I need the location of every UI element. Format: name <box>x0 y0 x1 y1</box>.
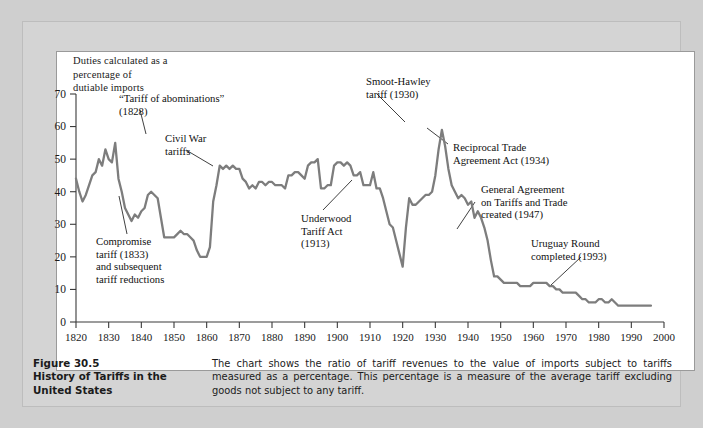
annotation-line: Reciprocal Trade <box>453 141 549 154</box>
annotation-tariff-of-abominations: “Tariff of abominations” (1828) <box>119 92 224 117</box>
x-axis-tick-label: 1930 <box>424 331 447 343</box>
x-axis-tick-label: 1990 <box>620 331 643 343</box>
annotation-line: Tariff Act <box>301 225 351 238</box>
x-axis-tick-label: 1960 <box>522 331 545 343</box>
annotation-line: on Tariffs and Trade <box>481 196 567 209</box>
annotation-reciprocal-trade: Reciprocal Trade Agreement Act (1934) <box>453 141 549 166</box>
chart-plot: 010203040506070 182018301840185018601870… <box>23 22 680 406</box>
x-axis-tick-label: 1900 <box>326 331 349 343</box>
annotation-compromise-tariff: Compromise tariff (1833) and subsequent … <box>96 235 164 285</box>
y-axis-ticks: 010203040506070 <box>55 88 77 328</box>
annotation-line: General Agreement <box>481 183 567 196</box>
y-axis-tick-label: 50 <box>55 153 67 165</box>
figure-caption-body: The chart shows the ratio of tariff reve… <box>212 357 672 397</box>
figure-caption-title: Figure 30.5 History of Tariffs in the Un… <box>33 357 208 397</box>
x-axis-tick-label: 1820 <box>65 331 88 343</box>
x-axis-tick-label: 1830 <box>98 331 121 343</box>
x-axis-tick-label: 1880 <box>261 331 284 343</box>
annotation-line: completed (1993) <box>531 250 607 263</box>
annotation-smoot-hawley: Smoot-Hawley tariff (1930) <box>366 75 431 100</box>
annotation-line: (1913) <box>301 237 351 250</box>
annotation-civil-war-tariffs: Civil War tariffs <box>165 132 206 157</box>
annotation-line: Smoot-Hawley <box>366 75 431 88</box>
caption-title-line-2: History of Tariffs in the <box>33 370 208 383</box>
annotation-line: Compromise <box>96 235 164 248</box>
annotation-line: Underwood <box>301 212 351 225</box>
annotation-line: “Tariff of abominations” <box>119 92 224 105</box>
chart-axes <box>76 94 664 322</box>
annotation-line: created (1947) <box>481 208 567 221</box>
annotation-line: tariff reductions <box>96 273 164 286</box>
annotation-line: tariffs <box>165 145 206 158</box>
y-axis-tick-label: 60 <box>55 120 67 132</box>
x-axis-tick-label: 1870 <box>228 331 251 343</box>
y-axis-tick-label: 10 <box>55 283 67 295</box>
caption-title-line-1: Figure 30.5 <box>33 357 208 370</box>
x-axis-tick-label: 1910 <box>359 331 382 343</box>
annotation-line: tariff (1930) <box>366 88 431 101</box>
x-axis-tick-label: 2000 <box>653 331 676 343</box>
x-axis-tick-label: 1940 <box>457 331 480 343</box>
x-axis-tick-label: 1840 <box>130 331 153 343</box>
annotation-uruguay-round: Uruguay Round completed (1993) <box>531 237 607 262</box>
page-background: Duties calculated as a percentage of dut… <box>0 0 703 428</box>
annotation-line: Agreement Act (1934) <box>453 154 549 167</box>
y-axis-tick-label: 70 <box>55 88 67 100</box>
y-axis-tick-label: 30 <box>55 218 67 230</box>
x-axis-tick-label: 1970 <box>555 331 578 343</box>
y-axis-tick-label: 20 <box>55 251 67 263</box>
annotation-line: tariff (1833) <box>96 248 164 261</box>
x-axis-tick-label: 1890 <box>294 331 317 343</box>
annotation-line: Uruguay Round <box>531 237 607 250</box>
x-axis-tick-label: 1980 <box>588 331 611 343</box>
y-axis-tick-label: 0 <box>60 316 66 328</box>
x-axis-ticks: 1820183018401850186018701880189019001910… <box>65 322 676 343</box>
caption-title-line-3: United States <box>33 384 208 397</box>
x-axis-tick-label: 1850 <box>163 331 186 343</box>
figure-block: Duties calculated as a percentage of dut… <box>23 22 680 406</box>
annotation-gatt: General Agreement on Tariffs and Trade c… <box>481 183 567 221</box>
annotation-line: and subsequent <box>96 260 164 273</box>
annotation-line: Civil War <box>165 132 206 145</box>
annotation-underwood-tariff-act: Underwood Tariff Act (1913) <box>301 212 351 250</box>
x-axis-tick-label: 1920 <box>392 331 415 343</box>
y-axis-tick-label: 40 <box>55 186 67 198</box>
annotation-line: (1828) <box>119 105 224 118</box>
x-axis-tick-label: 1860 <box>196 331 219 343</box>
x-axis-tick-label: 1950 <box>490 331 512 343</box>
